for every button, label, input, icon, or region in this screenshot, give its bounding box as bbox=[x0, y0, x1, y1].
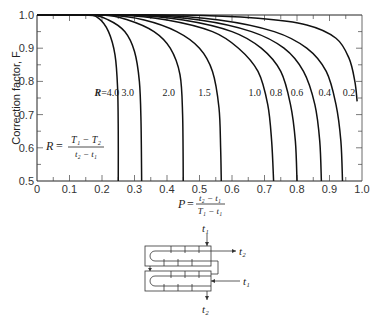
curve-r-0-2 bbox=[37, 15, 357, 102]
x-tick-label: 1.0 bbox=[354, 183, 369, 195]
r-equals: = bbox=[56, 139, 63, 153]
r-symbol: R bbox=[45, 139, 54, 153]
x-tick-label: 0.2 bbox=[94, 183, 109, 195]
curve-labels: R=4.03.02.01.51.00.80.60.40.2 bbox=[93, 87, 355, 98]
r-definition: R = T₁ − T₂ t₂ − t₁ bbox=[45, 134, 104, 159]
r-numerator: T₁ − T₂ bbox=[71, 134, 101, 145]
x-tick-label: 0.1 bbox=[62, 183, 77, 195]
heat-exchanger-diagram bbox=[145, 234, 240, 300]
y-axis-label: Correction factor, F bbox=[10, 51, 22, 145]
label-t1-right: t₁ bbox=[243, 275, 250, 287]
x-tick-label: 0.6 bbox=[224, 183, 239, 195]
curve-label: 2.0 bbox=[162, 87, 175, 98]
x-tick-label: 0.8 bbox=[289, 183, 304, 195]
x-tick-label: 0.9 bbox=[322, 183, 337, 195]
curve-label: R=4.0 bbox=[93, 87, 119, 98]
label-t2-right: t₂ bbox=[239, 245, 246, 257]
p-equals: = bbox=[187, 197, 194, 211]
p-numerator: t₂ − t₁ bbox=[199, 193, 221, 203]
p-symbol: P bbox=[177, 197, 186, 211]
r-denominator: t₂ − t₁ bbox=[75, 149, 97, 159]
axis-ticks: 00.10.20.30.40.50.60.70.80.91.00.50.60.7… bbox=[19, 9, 370, 195]
label-t1-top: t₁ bbox=[202, 222, 209, 234]
y-tick-label: 0.5 bbox=[19, 175, 34, 187]
curve-label: 1.5 bbox=[198, 87, 211, 98]
curve-label: 0.2 bbox=[343, 87, 356, 98]
shell-crossover bbox=[211, 261, 218, 274]
upper-tube-bend bbox=[150, 251, 211, 261]
curve-r-2-0 bbox=[37, 15, 183, 181]
label-t2-bottom: t₂ bbox=[202, 303, 209, 315]
curve-label: 1.0 bbox=[249, 87, 262, 98]
lower-tube-bend bbox=[150, 276, 211, 286]
p-denominator: T₁ − t₁ bbox=[198, 206, 222, 216]
curve-label: 3.0 bbox=[121, 87, 134, 98]
x-tick-label: 0.4 bbox=[159, 183, 174, 195]
curve-label: 0.8 bbox=[270, 87, 283, 98]
correction-factor-chart: 00.10.20.30.40.50.60.70.80.91.00.50.60.7… bbox=[0, 0, 380, 318]
x-tick-label: 0.7 bbox=[257, 183, 272, 195]
x-tick-label: 0 bbox=[34, 183, 40, 195]
curve-r-1-0 bbox=[37, 15, 274, 181]
curve-label: 0.6 bbox=[291, 87, 304, 98]
y-tick-label: 1.0 bbox=[19, 9, 34, 21]
x-axis-label: P = t₂ − t₁ T₁ − t₁ bbox=[177, 193, 225, 216]
curve-label: 0.4 bbox=[318, 87, 331, 98]
x-tick-label: 0.3 bbox=[127, 183, 142, 195]
